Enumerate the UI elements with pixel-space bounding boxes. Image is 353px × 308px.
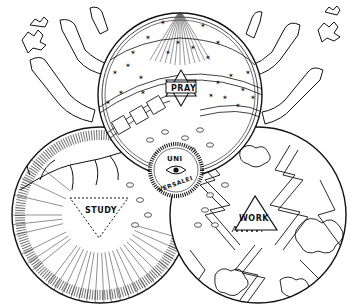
medallion-text-top: UNI bbox=[167, 155, 183, 163]
svg-text:✶: ✶ bbox=[130, 49, 136, 57]
svg-text:✶: ✶ bbox=[208, 92, 214, 100]
svg-text:✶: ✶ bbox=[240, 86, 246, 94]
illustration: ✶✶✶ ✶✶✶ ✶✶✶ ✶✶✶ ✶✶✶ ✶✶✶ ✶✶✶ ✶✶ bbox=[0, 0, 353, 308]
svg-text:✶: ✶ bbox=[215, 79, 221, 87]
svg-text:✶: ✶ bbox=[250, 94, 256, 102]
pray-label: PRAY bbox=[171, 84, 196, 93]
svg-text:✶: ✶ bbox=[228, 72, 234, 80]
svg-text:✶: ✶ bbox=[190, 44, 196, 52]
study-label: STUDY bbox=[85, 206, 117, 215]
left-arms bbox=[22, 7, 110, 122]
svg-text:✶: ✶ bbox=[205, 54, 211, 62]
svg-text:✶: ✶ bbox=[245, 69, 251, 77]
svg-text:✶: ✶ bbox=[112, 69, 118, 77]
svg-text:✶: ✶ bbox=[125, 62, 131, 70]
svg-text:✶: ✶ bbox=[235, 102, 241, 110]
svg-text:✶: ✶ bbox=[175, 39, 181, 47]
svg-text:✶: ✶ bbox=[160, 19, 166, 27]
svg-text:✶: ✶ bbox=[215, 39, 221, 47]
svg-text:✶: ✶ bbox=[138, 74, 144, 82]
svg-text:✶: ✶ bbox=[222, 94, 228, 102]
svg-text:✶: ✶ bbox=[118, 89, 124, 97]
svg-text:✶: ✶ bbox=[140, 89, 146, 97]
svg-text:✶: ✶ bbox=[200, 22, 206, 30]
diagram-canvas: ✶✶✶ ✶✶✶ ✶✶✶ ✶✶✶ ✶✶✶ ✶✶✶ ✶✶✶ ✶✶ bbox=[0, 0, 353, 308]
work-label: WORK bbox=[239, 214, 269, 223]
svg-text:✶: ✶ bbox=[165, 49, 171, 57]
svg-text:✶: ✶ bbox=[105, 99, 111, 107]
svg-text:✶: ✶ bbox=[145, 34, 151, 42]
